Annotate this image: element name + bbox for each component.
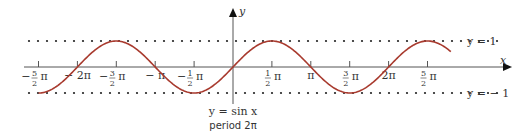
dot bbox=[64, 92, 66, 94]
dot bbox=[181, 40, 183, 42]
tick-pi: π bbox=[41, 70, 48, 83]
dot bbox=[100, 92, 102, 94]
dot bbox=[415, 40, 417, 42]
tick-denominator: 2 bbox=[32, 79, 37, 88]
dot bbox=[73, 40, 75, 42]
tick-numerator: 1 bbox=[188, 69, 193, 78]
dot bbox=[82, 40, 84, 42]
dot bbox=[127, 40, 129, 42]
dot bbox=[208, 92, 210, 94]
dot bbox=[244, 40, 246, 42]
dot bbox=[397, 92, 399, 94]
tick-numerator: 1 bbox=[265, 69, 270, 78]
dot bbox=[235, 40, 237, 42]
dot bbox=[298, 92, 300, 94]
dot bbox=[244, 92, 246, 94]
x-tick: − 2π bbox=[64, 61, 91, 82]
dot bbox=[154, 40, 156, 42]
dot bbox=[46, 40, 48, 42]
dot bbox=[451, 40, 453, 42]
dot bbox=[217, 92, 219, 94]
tick-numerator: 5 bbox=[421, 69, 426, 78]
tick-denominator: 2 bbox=[188, 79, 193, 88]
dot bbox=[361, 92, 363, 94]
dot bbox=[181, 92, 183, 94]
dot bbox=[361, 40, 363, 42]
dot bbox=[226, 92, 228, 94]
axes bbox=[24, 8, 512, 104]
tick-denominator: 2 bbox=[265, 79, 270, 88]
tick-sign: − bbox=[21, 70, 30, 83]
dot bbox=[442, 40, 444, 42]
tick-label: 2π bbox=[381, 69, 395, 82]
tick-numerator: 3 bbox=[110, 69, 115, 78]
tick-pi: π bbox=[196, 70, 203, 83]
x-tick: 32π bbox=[343, 61, 359, 88]
dot bbox=[460, 40, 462, 42]
tick-denominator: 2 bbox=[343, 79, 348, 88]
dot bbox=[136, 92, 138, 94]
tick-pi: π bbox=[118, 70, 125, 83]
period-label: period 2π bbox=[209, 120, 256, 131]
dot bbox=[271, 92, 273, 94]
y-axis-label: y bbox=[238, 5, 246, 18]
dot bbox=[145, 40, 147, 42]
dot bbox=[28, 92, 30, 94]
tick-numerator: 5 bbox=[32, 69, 37, 78]
dot bbox=[82, 92, 84, 94]
dot bbox=[289, 92, 291, 94]
tick-label: − 2π bbox=[64, 69, 91, 82]
dot bbox=[433, 92, 435, 94]
dot bbox=[217, 40, 219, 42]
dot bbox=[163, 92, 165, 94]
dot bbox=[190, 40, 192, 42]
tick-label: π bbox=[307, 69, 314, 82]
x-tick: 52π bbox=[421, 61, 437, 88]
dot bbox=[253, 92, 255, 94]
dot bbox=[334, 92, 336, 94]
dot bbox=[424, 92, 426, 94]
dot bbox=[145, 92, 147, 94]
dot bbox=[307, 92, 309, 94]
dot bbox=[415, 92, 417, 94]
dot bbox=[163, 40, 165, 42]
tick-denominator: 2 bbox=[421, 79, 426, 88]
dot bbox=[55, 92, 57, 94]
x-tick: − π bbox=[145, 61, 165, 82]
dot bbox=[451, 92, 453, 94]
dot bbox=[226, 40, 228, 42]
y-axis-arrow-icon bbox=[229, 8, 237, 17]
dot bbox=[91, 40, 93, 42]
dot bbox=[127, 92, 129, 94]
dot bbox=[298, 40, 300, 42]
dot bbox=[460, 92, 462, 94]
tick-sign: − bbox=[99, 70, 108, 83]
x-axis-label: x bbox=[500, 54, 507, 67]
dot bbox=[253, 40, 255, 42]
dot bbox=[73, 92, 75, 94]
dot bbox=[91, 92, 93, 94]
dot bbox=[334, 40, 336, 42]
lower-line-label: y = − 1 bbox=[466, 87, 509, 100]
dot bbox=[388, 92, 390, 94]
dot bbox=[325, 40, 327, 42]
dot bbox=[325, 92, 327, 94]
equation-label: y = sin x bbox=[208, 105, 258, 118]
tick-pi: π bbox=[274, 70, 281, 83]
dot bbox=[406, 40, 408, 42]
dot bbox=[208, 40, 210, 42]
dot bbox=[388, 40, 390, 42]
dot bbox=[55, 40, 57, 42]
tick-pi: π bbox=[430, 70, 437, 83]
dot bbox=[370, 92, 372, 94]
dot bbox=[352, 40, 354, 42]
tick-pi: π bbox=[352, 70, 359, 83]
tick-numerator: 3 bbox=[343, 69, 348, 78]
dot bbox=[199, 40, 201, 42]
dot bbox=[172, 92, 174, 94]
dot bbox=[397, 40, 399, 42]
dot bbox=[172, 40, 174, 42]
dot bbox=[379, 40, 381, 42]
dot bbox=[154, 92, 156, 94]
dot bbox=[109, 92, 111, 94]
